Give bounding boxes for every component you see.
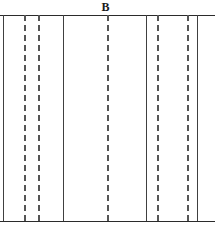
segment-boundary-left — [3, 15, 4, 221]
change-point-line-3 — [107, 15, 109, 221]
figure-root: B — [0, 0, 215, 227]
frame-bottom-border — [0, 221, 215, 222]
segment-boundary-2 — [146, 15, 147, 221]
segment-boundary-right — [197, 15, 198, 221]
plot-area — [0, 0, 215, 227]
change-point-line-1 — [24, 15, 26, 221]
segment-boundary-1 — [63, 15, 64, 221]
change-point-line-2 — [38, 15, 40, 221]
change-point-line-4 — [157, 15, 159, 221]
change-point-line-5 — [187, 15, 189, 221]
